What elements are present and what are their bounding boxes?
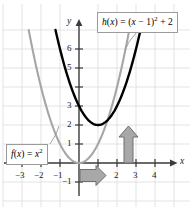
y-tick-label-1: 1: [67, 139, 72, 148]
x-tick-label-2: 2: [114, 171, 119, 180]
x-tick-label-3: 3: [133, 171, 138, 180]
x-tick-label-4: 4: [152, 171, 157, 180]
y-tick-label-neg1: −1: [62, 177, 72, 186]
y-tick-label-2: 2: [67, 120, 72, 129]
y-tick-label-3: 3: [67, 101, 72, 110]
callout-f-equals: =: [25, 149, 35, 159]
x-tick-label-neg3: −3: [15, 171, 25, 180]
x-axis-label: x: [180, 157, 184, 167]
callout-f-equation: f(x) = x2: [6, 144, 48, 165]
callout-h-equals: = (: [118, 17, 132, 27]
y-tick-label-6: 6: [67, 44, 72, 53]
y-axis-label: y: [67, 17, 71, 27]
callout-f-exponent: 2: [39, 147, 42, 154]
callout-h-plus-two: + 2: [158, 17, 173, 27]
callout-h-minus-one: − 1): [136, 17, 155, 27]
callout-h-equation: h(x) = (x − 1)2 + 2: [97, 12, 178, 33]
graph-figure: x y −3 −2 −1 2 3 4 6 5 3 2 1 −1 h(x) = (…: [0, 0, 192, 210]
y-tick-label-5: 5: [67, 63, 72, 72]
x-tick-label-neg2: −2: [34, 171, 44, 180]
